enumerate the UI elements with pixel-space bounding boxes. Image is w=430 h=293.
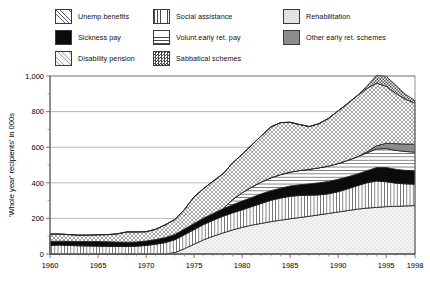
x-tick-label: 1975 xyxy=(186,261,203,270)
chart-y-axis: 02004006008001,000'Whole year' recipient… xyxy=(7,72,50,259)
legend-item-unemp[interactable]: Unemp.benefits xyxy=(55,6,135,26)
x-tick-label: 1998 xyxy=(407,261,424,270)
y-tick-label: 1,000 xyxy=(25,72,44,81)
legend-label-other: Other early ret. schemes xyxy=(306,33,386,42)
legend-swatch-volunt-icon xyxy=(153,30,170,45)
x-tick-label: 1960 xyxy=(42,261,59,270)
legend-label-unemp: Unemp.benefits xyxy=(78,12,129,21)
chart-areas xyxy=(50,75,415,254)
x-tick-label: 1995 xyxy=(378,261,395,270)
chart-svg: 196019651970197519801985199019951998 020… xyxy=(0,68,430,293)
stacked-area-chart: 196019651970197519801985199019951998 020… xyxy=(0,68,430,293)
x-tick-label: 1985 xyxy=(282,261,299,270)
legend-label-disability: Disability pension xyxy=(78,54,135,63)
chart-page: Unemp.benefitsSickness payDisability pen… xyxy=(0,0,430,293)
y-tick-label: 400 xyxy=(31,179,44,188)
legend-label-social: Social assistance xyxy=(176,12,232,21)
legend-item-sabbatical[interactable]: Sabbatical schemes xyxy=(153,48,241,68)
y-tick-label: 600 xyxy=(31,143,44,152)
chart-legend: Unemp.benefitsSickness payDisability pen… xyxy=(55,6,385,66)
x-tick-label: 1970 xyxy=(138,261,155,270)
y-tick-label: 800 xyxy=(31,107,44,116)
chart-x-axis: 196019651970197519801985199019951998 xyxy=(42,254,424,270)
y-tick-label: 200 xyxy=(31,214,44,223)
legend-label-rehab: Rehabilitation xyxy=(306,12,350,21)
legend-swatch-disability-icon xyxy=(55,51,72,66)
x-tick-label: 1990 xyxy=(330,261,347,270)
y-tick-label: 0 xyxy=(40,250,44,259)
legend-column-3: RehabilitationOther early ret. schemes xyxy=(283,6,386,48)
legend-item-other[interactable]: Other early ret. schemes xyxy=(283,27,386,47)
y-axis-label: 'Whole year' recipients' in 000s xyxy=(7,113,16,217)
legend-item-social[interactable]: Social assistance xyxy=(153,6,241,26)
legend-swatch-sickness-icon xyxy=(55,30,72,45)
legend-item-rehab[interactable]: Rehabilitation xyxy=(283,6,386,26)
legend-label-sabbatical: Sabbatical schemes xyxy=(176,54,241,63)
legend-swatch-sabbatical-icon xyxy=(153,51,170,66)
legend-column-1: Unemp.benefitsSickness payDisability pen… xyxy=(55,6,135,69)
legend-item-disability[interactable]: Disability pension xyxy=(55,48,135,68)
legend-swatch-unemp-icon xyxy=(55,9,72,24)
legend-swatch-social-icon xyxy=(153,9,170,24)
legend-swatch-other-icon xyxy=(283,30,300,45)
x-tick-label: 1965 xyxy=(90,261,107,270)
legend-column-2: Social assistanceVolunt.early ret. paySa… xyxy=(153,6,241,69)
legend-item-volunt[interactable]: Volunt.early ret. pay xyxy=(153,27,241,47)
x-tick-label: 1980 xyxy=(234,261,251,270)
legend-item-sickness[interactable]: Sickness pay xyxy=(55,27,135,47)
legend-label-volunt: Volunt.early ret. pay xyxy=(176,33,241,42)
legend-label-sickness: Sickness pay xyxy=(78,33,121,42)
legend-swatch-rehab-icon xyxy=(283,9,300,24)
